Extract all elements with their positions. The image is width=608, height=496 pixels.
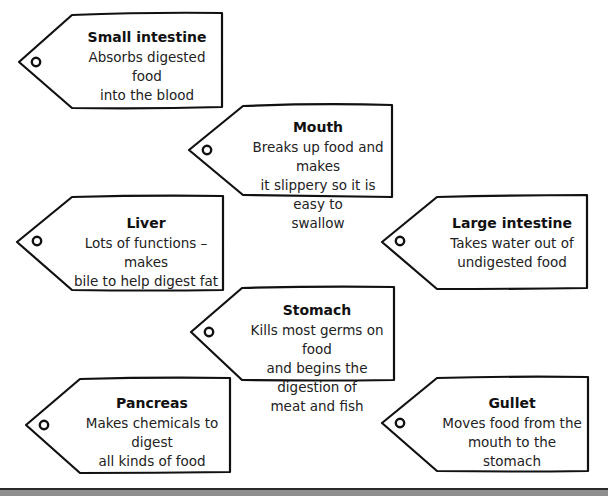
worksheet-page: Small intestine Absorbs digested food in… [0,0,608,496]
tag-description: Moves food from the mouth to the stomach [437,414,587,471]
page-bottom-border [0,488,608,496]
tag-gullet: Gullet Moves food from the mouth to the … [0,0,608,496]
tag-title: Gullet [437,394,587,413]
